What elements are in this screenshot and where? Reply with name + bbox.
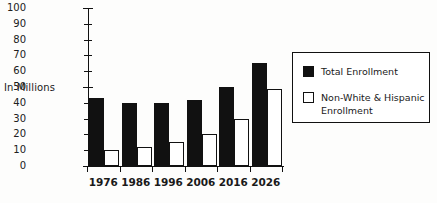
bar-minority-enrollment-1996 [169,142,184,166]
hollow-square-icon [303,92,314,103]
x-tick-mark [217,166,218,172]
x-axis-label-1976: 1976 [86,176,120,188]
legend-item-total-enrollment: Total Enrollment [303,65,398,78]
legend-label-total-enrollment: Total Enrollment [321,65,398,78]
bar-minority-enrollment-2026 [267,89,282,166]
x-axis-label-2016: 2016 [216,176,250,188]
bar-minority-enrollment-2006 [202,134,217,166]
y-tick-label: 90 [2,18,26,29]
bar-minority-enrollment-1976 [104,150,119,166]
bar-total-enrollment-1986 [122,103,137,166]
x-tick-mark [87,166,88,172]
x-tick-mark [152,166,153,172]
y-tick-label: 50 [2,81,26,92]
x-axis-label-1996: 1996 [151,176,185,188]
bar-chart: In Millions 1009080706050403020100 19761… [0,0,437,203]
y-tick-label: 30 [2,113,26,124]
x-tick-mark [120,166,121,172]
x-axis-line [88,166,284,167]
x-tick-mark [250,166,251,172]
x-tick-mark [185,166,186,172]
y-tick-label: 10 [2,144,26,155]
legend-item-minority-enrollment: Non-White & Hispanic Enrollment [303,91,425,117]
bar-total-enrollment-1976 [89,98,104,166]
y-tick-mark [83,166,93,167]
y-tick-label: 40 [2,97,26,108]
bar-minority-enrollment-2016 [234,119,249,166]
bar-minority-enrollment-1986 [137,147,152,166]
x-axis-label-2006: 2006 [184,176,218,188]
bar-total-enrollment-2006 [187,100,202,166]
y-tick-label: 60 [2,65,26,76]
x-axis-label-2026: 2026 [249,176,283,188]
bar-total-enrollment-2026 [252,63,267,166]
filled-square-icon [303,66,314,77]
bar-total-enrollment-2016 [219,87,234,166]
bar-total-enrollment-1996 [154,103,169,166]
y-tick-label: 80 [2,34,26,45]
x-tick-mark [282,166,283,172]
x-axis-label-1986: 1986 [119,176,153,188]
y-tick-label: 100 [2,2,26,13]
y-tick-label: 70 [2,49,26,60]
y-tick-label: 0 [2,160,26,171]
legend-label-minority-enrollment: Non-White & Hispanic Enrollment [321,91,425,117]
plot-area [88,8,282,166]
y-tick-label: 20 [2,128,26,139]
chart-legend: Total Enrollment Non-White & Hispanic En… [292,52,430,123]
